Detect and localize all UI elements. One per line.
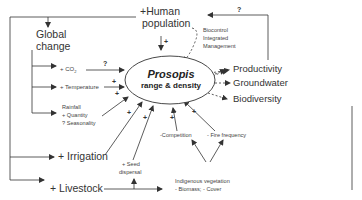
fire-frequency-label: - Fire frequency [207,132,246,138]
seed-plus-sign: + [143,114,147,122]
management-integrated: Integrated [203,35,228,41]
feedback-question-sign: ? [237,6,241,14]
outcome-groundwater: Groundwater [233,78,288,88]
temperature-label: + Temperature [60,84,99,91]
co2-question-sign: ? [103,60,107,68]
outcome-biodiversity: Biodiversity [233,94,282,104]
human-plus-sign: + [164,38,168,46]
rainfall-label: Rainfall [62,104,81,110]
rainfall-quantity: + Quantity [62,112,88,118]
management-label: Management [203,43,236,49]
outcome-productivity: Productivity [233,64,282,74]
irrigation-plus-sign: + [127,109,131,117]
rainfall-seasonality: ? Seasonality [62,120,96,126]
global-change-line2: change [36,41,70,53]
co2-label: + CO2 [60,66,76,75]
global-change-line1: Global [36,29,66,41]
seed-dispersal-line1: + Seed [122,161,140,167]
irrigation-label: + Irrigation [58,151,108,163]
management-biocontrol: Biocontrol [203,27,228,33]
center-subtitle: range & density [126,82,216,91]
temperature-plus-sign: + [112,78,116,86]
human-population-line1: +Human [140,6,180,18]
competition-label: -Competition [160,132,192,138]
fire-plus-sign: + [192,108,196,116]
center-title: Prosopis [126,68,216,80]
livestock-label: + Livestock [50,183,103,195]
competition-plus-sign: + [170,114,174,122]
seed-dispersal-line2: dispersal [119,169,141,175]
indigenous-vegetation-effects: - Biomass; - Cover [175,186,221,192]
indigenous-vegetation-label: Indigenous vegetation [175,178,230,184]
rainfall-plus-sign: + [115,90,119,98]
human-population-line2: population [142,18,190,30]
prosopis-diagram: Prosopis range & density +Human populati… [0,0,362,200]
